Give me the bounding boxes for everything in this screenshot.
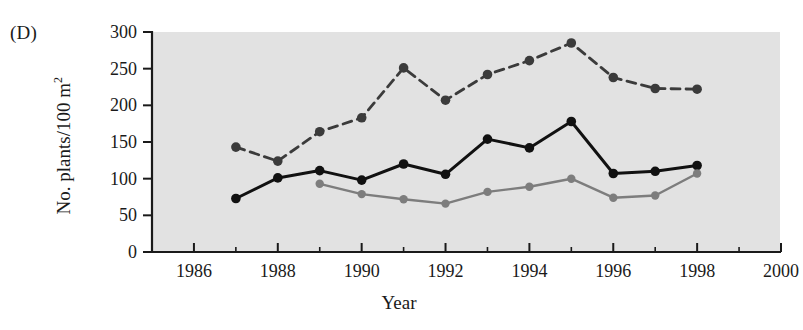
solid-black-series-marker: [357, 175, 367, 185]
y-tick-label: 100: [77, 170, 137, 188]
solid-gray-series-marker: [525, 183, 533, 191]
solid-black-series-marker: [315, 166, 325, 176]
x-tick-label: 1988: [243, 262, 313, 280]
dashed-dark-series-marker: [273, 156, 283, 166]
dashed-dark-series-marker: [567, 38, 577, 48]
dashed-dark-series-marker: [609, 73, 619, 83]
dashed-dark-series-marker: [399, 63, 409, 73]
plot-background-group: [152, 32, 780, 252]
x-tick-label: 1986: [159, 262, 229, 280]
solid-gray-series-marker: [651, 191, 659, 199]
y-tick-label: 50: [77, 206, 137, 224]
dashed-dark-series-marker: [231, 142, 241, 152]
solid-gray-series-marker: [399, 195, 407, 203]
y-tick-label: 150: [77, 133, 137, 151]
solid-black-series-marker: [273, 173, 283, 183]
x-tick-label: 1996: [578, 262, 648, 280]
solid-black-series-marker: [483, 134, 493, 144]
solid-black-series-marker: [650, 167, 660, 177]
dashed-dark-series-marker: [357, 113, 367, 123]
dashed-dark-series-marker: [315, 127, 325, 137]
y-tick-label: 0: [77, 243, 137, 261]
dashed-dark-series-marker: [483, 70, 493, 80]
x-tick-label: 2000: [746, 262, 803, 280]
solid-black-series-marker: [609, 169, 619, 179]
solid-black-series-marker: [231, 194, 241, 204]
y-tick-label: 200: [77, 96, 137, 114]
solid-black-series-marker: [399, 159, 409, 169]
dashed-dark-series-marker: [441, 95, 451, 105]
y-tick-label: 250: [77, 60, 137, 78]
solid-black-series-marker: [441, 170, 451, 180]
solid-black-series-marker: [567, 117, 577, 127]
x-tick-label: 1992: [411, 262, 481, 280]
y-tick-label: 300: [77, 23, 137, 41]
solid-black-series-marker: [525, 143, 535, 153]
solid-gray-series-marker: [609, 194, 617, 202]
solid-gray-series-marker: [316, 180, 324, 188]
solid-gray-series-marker: [441, 199, 449, 207]
solid-gray-series-marker: [567, 175, 575, 183]
x-tick-label: 1998: [662, 262, 732, 280]
x-tick-label: 1994: [494, 262, 564, 280]
x-tick-label: 1990: [327, 262, 397, 280]
solid-black-series-marker: [692, 161, 702, 171]
solid-gray-series-marker: [358, 190, 366, 198]
dashed-dark-series-marker: [525, 56, 535, 66]
dashed-dark-series-marker: [692, 84, 702, 94]
dashed-dark-series-marker: [650, 84, 660, 94]
plot-background: [152, 32, 780, 252]
solid-gray-series-marker: [693, 169, 701, 177]
solid-gray-series-marker: [483, 188, 491, 196]
